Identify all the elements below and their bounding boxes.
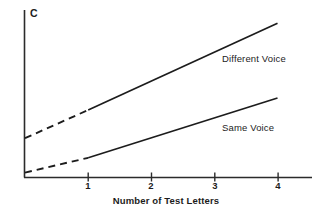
x-tick-label-2: 2 bbox=[139, 180, 163, 191]
x-axis-title: Number of Test Letters bbox=[0, 195, 332, 206]
series-different-voice-solid bbox=[88, 23, 277, 110]
series-different-voice-dashed bbox=[25, 110, 88, 138]
chart-figure: C 1 2 3 4 Number of Test Letters Differe… bbox=[0, 0, 332, 214]
x-tick-label-4: 4 bbox=[266, 180, 290, 191]
series-same-voice-dashed bbox=[25, 158, 88, 173]
x-tick-label-1: 1 bbox=[76, 180, 100, 191]
y-axis-label: C bbox=[30, 7, 38, 19]
series-label-same-voice: Same Voice bbox=[222, 122, 274, 133]
series-label-different-voice: Different Voice bbox=[222, 53, 286, 64]
x-tick-label-3: 3 bbox=[203, 180, 227, 191]
